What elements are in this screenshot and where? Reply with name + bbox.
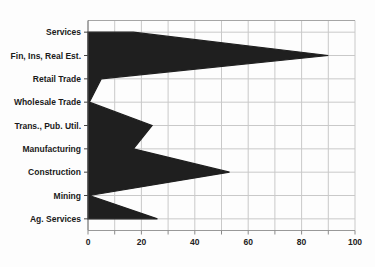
category-label: Retail Trade	[33, 74, 81, 84]
x-tick-label: 40	[190, 237, 200, 247]
category-label: Services	[46, 27, 81, 37]
x-tick-label: 60	[243, 237, 253, 247]
x-tick-label: 80	[297, 237, 307, 247]
category-label: Ag. Services	[30, 214, 81, 224]
category-label: Mining	[54, 191, 81, 201]
category-label: Wholesale Trade	[14, 97, 81, 107]
category-label: Manufacturing	[22, 144, 81, 154]
category-label: Fin, Ins, Real Est.	[11, 51, 81, 61]
industry-area-chart: ServicesFin, Ins, Real Est.Retail TradeW…	[0, 0, 375, 267]
scanned-area-chart-figure: ServicesFin, Ins, Real Est.Retail TradeW…	[0, 0, 375, 267]
x-tick-label: 100	[348, 237, 362, 247]
category-label: Construction	[28, 167, 81, 177]
x-tick-label: 20	[137, 237, 147, 247]
x-tick-label: 0	[86, 237, 91, 247]
category-label: Trans., Pub. Util.	[14, 121, 81, 131]
